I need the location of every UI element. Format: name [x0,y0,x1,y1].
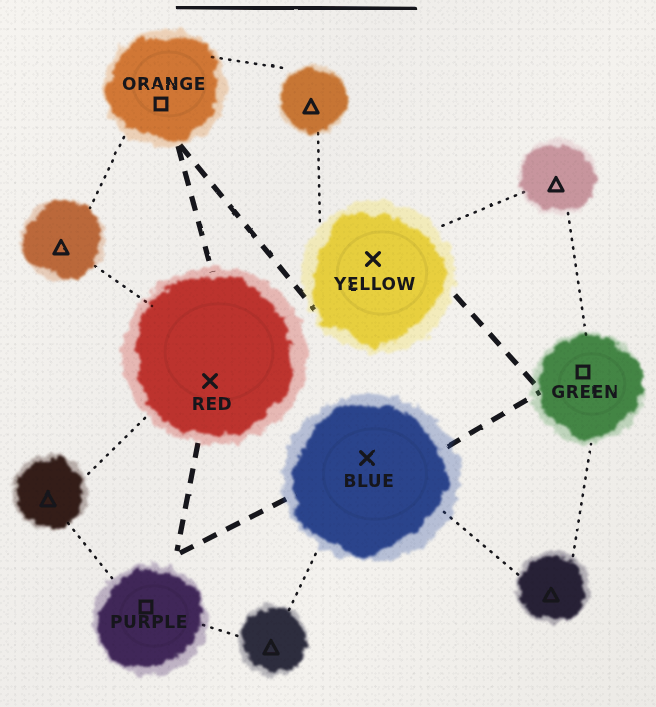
edge-red-bottomleft [84,418,145,478]
edge-blue-bottomright [444,512,521,577]
edge-orange-red [178,146,212,272]
edge-topright-yellow [318,133,320,227]
network-diagram: ORANGEYELLOWREDBLUEGREENPURPLE [0,0,656,707]
node-red[interactable] [122,267,308,445]
edge-bottomright-green [573,444,591,556]
node-label-red: RED [192,394,233,414]
edge-upperright-yellow [437,192,524,228]
node-label-purple: PURPLE [110,612,188,632]
edge-red-purple [177,443,198,551]
nodes-layer [11,29,645,676]
edge-bottomleft-purple [68,523,112,578]
diagram-canvas: ORANGEYELLOWREDBLUEGREENPURPLE [0,0,656,707]
node-label-green: GREEN [551,382,619,402]
edge-blue-green [447,392,540,447]
node-label-orange: ORANGE [122,74,206,94]
node-label-blue: BLUE [343,471,394,491]
node-node-bottom-left[interactable] [11,455,88,530]
node-node-left[interactable] [20,199,106,280]
edge-purple-blue [180,494,296,553]
edge-upperright-green [568,213,586,335]
edge-yellow-green [455,295,540,390]
edge-purple-bottomcenter [203,625,241,637]
node-node-upper-right[interactable] [518,138,597,215]
node-label-yellow: YELLOW [333,274,416,294]
node-node-bottom-center[interactable] [238,604,309,677]
edge-orange-left [90,137,124,208]
title-underline [178,7,415,9]
node-node-bottom-right[interactable] [516,551,591,624]
edge-bottomcenter-blue [289,549,318,610]
